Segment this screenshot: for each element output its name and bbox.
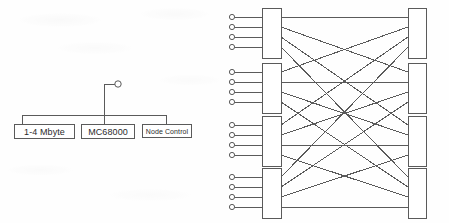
input-terminal-2-2[interactable]	[229, 142, 234, 147]
input-terminal-1-2[interactable]	[229, 89, 234, 94]
input-switch-0[interactable]	[262, 8, 281, 58]
input-terminal-0-1[interactable]	[229, 24, 234, 29]
output-switch-0[interactable]	[408, 8, 426, 58]
cpu-box[interactable]: MC68000	[81, 124, 135, 139]
input-terminal-1-0[interactable]	[229, 69, 234, 74]
input-switch-1[interactable]	[262, 63, 281, 113]
output-switch-2[interactable]	[408, 116, 426, 166]
input-terminal-2-0[interactable]	[229, 122, 234, 127]
input-group-2	[229, 122, 262, 157]
memory-box[interactable]: 1-4 Mbyte	[14, 124, 75, 139]
figure-root: 1-4 Mbyte MC68000 Node Control	[0, 0, 449, 223]
node-block-diagram: 1-4 Mbyte MC68000 Node Control	[0, 0, 225, 223]
cpu-box-label: MC68000	[88, 127, 128, 137]
input-terminal-3-2[interactable]	[229, 194, 234, 199]
input-switch-3[interactable]	[262, 168, 281, 218]
input-terminal-0-0[interactable]	[229, 14, 234, 19]
input-terminal-1-1[interactable]	[229, 79, 234, 84]
node-control-box-label: Node Control	[146, 128, 188, 135]
memory-box-label: 1-4 Mbyte	[24, 127, 65, 137]
input-group-0	[229, 14, 262, 49]
input-group-3	[229, 174, 262, 209]
output-switch-3[interactable]	[408, 168, 426, 218]
node-diagram-canvas	[0, 0, 225, 223]
input-terminal-0-2[interactable]	[229, 34, 234, 39]
input-terminal-0-3[interactable]	[229, 44, 234, 49]
input-switch-2[interactable]	[262, 116, 281, 166]
input-terminal-3-3[interactable]	[229, 204, 234, 209]
input-terminal-2-1[interactable]	[229, 132, 234, 137]
input-terminal-3-0[interactable]	[229, 174, 234, 179]
input-terminal-1-3[interactable]	[229, 99, 234, 104]
input-terminal-2-3[interactable]	[229, 152, 234, 157]
interconnection-network	[225, 0, 449, 223]
output-switch-1[interactable]	[408, 63, 426, 113]
external-port-circle[interactable]	[115, 81, 121, 87]
input-terminal-3-1[interactable]	[229, 184, 234, 189]
node-control-box[interactable]: Node Control	[142, 124, 192, 138]
input-group-1	[229, 69, 262, 104]
network-links	[281, 17, 408, 207]
network-diagram-canvas	[225, 0, 449, 223]
